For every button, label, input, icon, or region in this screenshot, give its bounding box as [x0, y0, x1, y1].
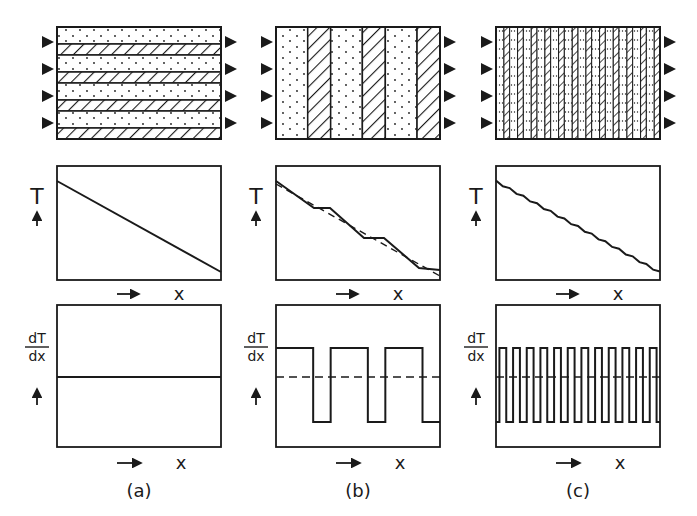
insulator-layer — [308, 27, 331, 139]
x-axis-label: x — [176, 452, 187, 473]
conductor-layer — [57, 27, 221, 44]
y-axis-label-dx: dx — [467, 348, 484, 364]
insulator-layer — [57, 44, 221, 55]
insulator-layer — [641, 27, 647, 139]
conductor-layer — [646, 27, 654, 139]
conductor-layer — [57, 111, 221, 128]
x-axis-label: x — [395, 452, 406, 473]
insulator-layer — [600, 27, 606, 139]
conductor-layer — [57, 83, 221, 100]
conductor-layer — [510, 27, 518, 139]
layered-structure-a — [43, 27, 235, 139]
conductor-layer — [592, 27, 600, 139]
conductor-layer — [564, 27, 572, 139]
panel-caption-c: (c) — [566, 480, 590, 501]
panel-a: TxdTdxx(a) — [25, 27, 235, 501]
x-axis-label: x — [615, 452, 626, 473]
insulator-layer — [559, 27, 565, 139]
insulator-layer — [57, 100, 221, 111]
temperature-plot-b: Tx — [248, 166, 440, 304]
conductor-layer — [523, 27, 531, 139]
conductor-layer — [331, 27, 363, 139]
insulator-layer — [613, 27, 619, 139]
insulator-layer — [57, 128, 221, 139]
conductor-layer — [605, 27, 613, 139]
y-axis-label-dT: dT — [28, 330, 46, 346]
x-axis-label: x — [174, 283, 185, 304]
gradient-plot-b: dTdxx — [244, 305, 440, 473]
insulator-layer — [417, 27, 440, 139]
insulator-layer — [531, 27, 537, 139]
insulator-layer — [362, 27, 385, 139]
gradient-plot-c: dTdxx — [464, 305, 660, 473]
layered-structure-c — [482, 27, 674, 139]
conductor-layer — [551, 27, 559, 139]
y-axis-label-dT: dT — [247, 330, 265, 346]
insulator-layer — [627, 27, 633, 139]
layered-structure-b — [262, 27, 454, 139]
insulator-layer — [586, 27, 592, 139]
panel-caption-b: (b) — [345, 480, 370, 501]
insulator-layer — [545, 27, 551, 139]
insulator-layer — [518, 27, 524, 139]
conductor-layer — [633, 27, 641, 139]
insulator-layer — [57, 72, 221, 83]
conductor-layer — [578, 27, 586, 139]
conductor-layer — [619, 27, 627, 139]
panel-b: TxdTdxx(b) — [244, 27, 454, 501]
y-axis-label-T: T — [468, 184, 483, 209]
temperature-plot-a: Tx — [29, 166, 221, 304]
y-axis-label-T: T — [248, 184, 263, 209]
insulator-layer — [572, 27, 578, 139]
conductor-layer — [276, 27, 308, 139]
y-axis-label-dT: dT — [467, 330, 485, 346]
temperature-plot-c: Tx — [468, 166, 660, 304]
panel-caption-a: (a) — [126, 480, 151, 501]
conductor-layer — [537, 27, 545, 139]
conductor-layer — [57, 55, 221, 72]
panel-c: TxdTdxx(c) — [464, 27, 674, 501]
y-axis-label-T: T — [29, 184, 44, 209]
y-axis-label-dx: dx — [28, 348, 45, 364]
conductor-layer — [496, 27, 504, 139]
x-axis-label: x — [613, 283, 624, 304]
x-axis-label: x — [393, 283, 404, 304]
layered-heat-conduction-figure: TxdTdxx(a)TxdTdxx(b)TxdTdxx(c) — [0, 0, 697, 516]
gradient-plot-a: dTdxx — [25, 305, 221, 473]
conductor-layer — [385, 27, 417, 139]
insulator-layer — [504, 27, 510, 139]
y-axis-label-dx: dx — [247, 348, 264, 364]
